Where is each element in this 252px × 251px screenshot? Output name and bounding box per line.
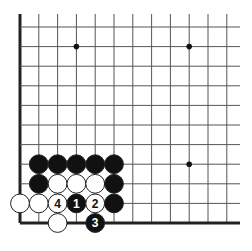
white-stone-move-4: 4 [48,194,67,213]
go-board: 4123 [0,0,252,251]
move-number-label: 4 [54,197,61,211]
star-point-icon [74,44,80,50]
black-stone [67,155,86,174]
star-point-icon [186,44,192,50]
white-stone-icon [48,174,67,193]
black-stone-move-3: 3 [86,214,105,233]
white-stone [11,194,30,213]
star-point-icon [186,161,192,167]
black-stone-icon [29,155,48,174]
black-stone [48,155,67,174]
black-stone-icon [105,194,124,213]
move-number-label: 3 [92,216,99,230]
black-stone [86,155,105,174]
black-stone-icon [67,155,86,174]
white-stone [48,214,67,233]
white-stone [29,194,48,213]
black-stone [105,174,124,193]
white-stone-icon [29,194,48,213]
white-stone-icon [67,174,86,193]
black-stone-move-1: 1 [67,194,86,213]
black-stone-icon [48,155,67,174]
move-number-label: 2 [92,197,99,211]
black-stone [105,155,124,174]
black-stone [29,174,48,193]
stones: 4123 [11,155,124,233]
black-stone-icon [86,155,105,174]
white-stone-icon [11,194,30,213]
move-number-label: 1 [73,197,80,211]
black-stone-icon [29,174,48,193]
white-stone [48,174,67,193]
black-stone [29,155,48,174]
white-stone [86,174,105,193]
black-stone-icon [105,155,124,174]
black-stone [105,194,124,213]
black-stone-icon [105,174,124,193]
white-stone-icon [48,214,67,233]
white-stone [67,174,86,193]
white-stone-icon [86,174,105,193]
white-stone-move-2: 2 [86,194,105,213]
